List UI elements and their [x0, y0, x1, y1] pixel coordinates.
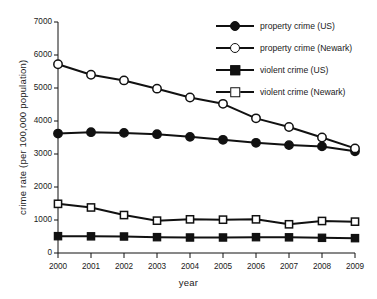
data-point-marker	[318, 142, 326, 150]
data-point-marker	[351, 144, 359, 152]
legend-item: violent crime (Newark)	[216, 82, 376, 102]
data-point-marker	[186, 93, 194, 101]
data-point-marker	[285, 221, 292, 228]
series-1	[54, 128, 359, 156]
data-point-marker	[153, 234, 160, 241]
legend-label: violent crime (US)	[260, 65, 328, 75]
data-point-marker	[120, 233, 127, 240]
data-point-marker	[186, 234, 193, 241]
data-point-marker	[153, 130, 161, 138]
data-point-marker	[285, 234, 292, 241]
data-point-marker	[351, 218, 358, 225]
series-4	[54, 200, 358, 228]
legend-item: property crime (Newark)	[216, 38, 376, 58]
data-point-marker	[87, 233, 94, 240]
data-point-marker	[219, 234, 226, 241]
data-point-marker	[120, 76, 128, 84]
data-point-marker	[54, 129, 62, 137]
data-point-marker	[87, 71, 95, 79]
data-point-marker	[186, 133, 194, 141]
data-point-marker	[219, 216, 226, 223]
data-point-marker	[318, 217, 325, 224]
data-point-marker	[186, 216, 193, 223]
legend-marker-circle-open-icon	[216, 41, 254, 55]
data-point-marker	[252, 114, 260, 122]
data-point-marker	[252, 139, 260, 147]
legend-item: violent crime (US)	[216, 60, 376, 80]
data-point-marker	[153, 217, 160, 224]
series-line	[58, 236, 355, 238]
legend-marker-square-open-icon	[216, 85, 254, 99]
series-line	[58, 204, 355, 224]
data-point-marker	[87, 204, 94, 211]
data-point-marker	[120, 211, 127, 218]
crime-rate-line-chart: crime rate (per 100,000 population) year…	[0, 0, 377, 299]
data-point-marker	[285, 123, 293, 131]
data-point-marker	[252, 234, 259, 241]
series-3	[54, 233, 358, 242]
data-point-marker	[120, 129, 128, 137]
data-point-marker	[54, 200, 61, 207]
chart-legend: property crime (US)property crime (Newar…	[216, 16, 376, 104]
legend-label: violent crime (Newark)	[260, 87, 345, 97]
legend-label: property crime (US)	[260, 21, 335, 31]
legend-label: property crime (Newark)	[260, 43, 352, 53]
data-point-marker	[318, 234, 325, 241]
data-point-marker	[153, 84, 161, 92]
data-point-marker	[87, 128, 95, 136]
legend-marker-circle-filled-icon	[216, 19, 254, 33]
data-point-marker	[54, 233, 61, 240]
series-line	[58, 132, 355, 151]
data-point-marker	[318, 133, 326, 141]
legend-item: property crime (US)	[216, 16, 376, 36]
data-point-marker	[285, 141, 293, 149]
x-axis-ticks	[58, 253, 355, 258]
legend-marker-square-filled-icon	[216, 63, 254, 77]
data-point-marker	[54, 60, 62, 68]
data-point-marker	[219, 136, 227, 144]
data-point-marker	[252, 216, 259, 223]
data-point-marker	[351, 235, 358, 242]
